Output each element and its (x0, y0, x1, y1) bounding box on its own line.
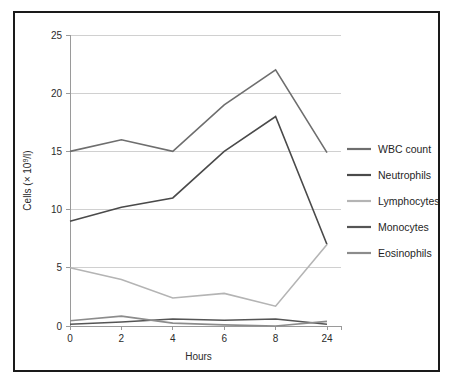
x-tick-label: 0 (67, 333, 73, 344)
y-tick-label: 15 (51, 146, 63, 157)
chart-legend: WBC countNeutrophilsLymphocytesMonocytes… (347, 143, 438, 259)
legend-label-lymphocytes: Lymphocytes (378, 195, 438, 207)
y-axis-title: Cells (× 109/l) (22, 150, 33, 210)
x-tick-label: 24 (321, 333, 333, 344)
y-tick-label: 25 (51, 30, 63, 41)
y-axis-ticks: 0510152025 (51, 30, 70, 332)
figure-frame: 0510152025 0246824 Cells (× 109/l) Hours… (13, 11, 440, 372)
y-tick-label: 0 (56, 321, 62, 332)
legend-label-monocytes: Monocytes (378, 221, 429, 233)
y-tick-label: 10 (51, 204, 63, 215)
axis-lines (70, 35, 341, 326)
y-axis-title-prefix: Cells (× 10 (22, 162, 33, 211)
series-line-wbc-count (70, 70, 327, 153)
x-axis-ticks: 0246824 (67, 326, 341, 344)
series-lines (70, 70, 327, 326)
x-axis-title: Hours (185, 351, 212, 362)
y-axis-title-text: Cells (× 109/l) (22, 150, 33, 210)
line-chart: 0510152025 0246824 Cells (× 109/l) Hours… (15, 13, 438, 370)
x-tick-label: 2 (119, 333, 125, 344)
x-tick-label: 8 (273, 333, 279, 344)
series-line-lymphocytes (70, 245, 327, 307)
legend-label-wbc-count: WBC count (378, 143, 431, 155)
x-tick-label: 4 (170, 333, 176, 344)
legend-label-neutrophils: Neutrophils (378, 169, 431, 181)
y-axis-title-suffix: /l) (22, 150, 33, 158)
y-tick-label: 20 (51, 88, 63, 99)
series-line-neutrophils (70, 116, 327, 244)
y-tick-label: 5 (56, 262, 62, 273)
grid-lines (70, 35, 341, 326)
x-tick-label: 6 (221, 333, 227, 344)
legend-label-eosinophils: Eosinophils (378, 247, 432, 259)
x-axis-title-text: Hours (185, 351, 212, 362)
